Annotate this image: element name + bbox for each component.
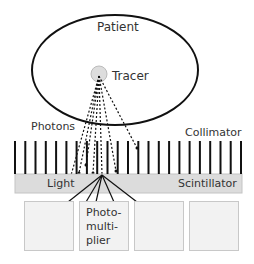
light-label: Light — [47, 178, 74, 190]
photons-label: Photons — [31, 121, 75, 133]
collimator-bars — [15, 141, 241, 174]
photon-paths — [68, 76, 137, 186]
photomultiplier-tube-4 — [189, 201, 239, 251]
patient-label: Patient — [97, 21, 139, 33]
gamma-camera-diagram: Patient Tracer Photons Collimator Light … — [0, 0, 254, 264]
photomultiplier-label: Photo- multi- plier — [86, 206, 122, 248]
scintillator-label: Scintillator — [178, 178, 237, 190]
photomultiplier-tube-1 — [24, 201, 74, 251]
tracer-source — [91, 66, 107, 82]
photomultiplier-tube-2: Photo- multi- plier — [79, 201, 129, 251]
tracer-label: Tracer — [112, 70, 149, 82]
collimator-label: Collimator — [185, 127, 242, 139]
photomultiplier-tube-3 — [134, 201, 184, 251]
